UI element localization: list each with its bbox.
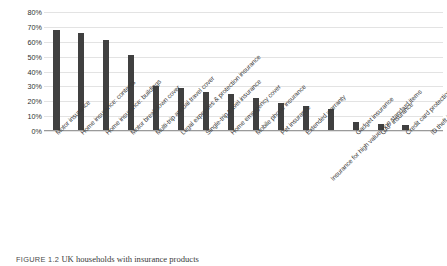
x-axis-tick-label: Home insurance: buildings bbox=[104, 131, 109, 136]
x-axis-tick-label: Gadget insurance bbox=[354, 131, 359, 136]
x-axis-tick-label: Home insurance: contents bbox=[79, 131, 84, 136]
y-axis-tick-label: 40% bbox=[28, 67, 42, 76]
figure-caption-number: FIGURE 1.2 bbox=[16, 255, 59, 264]
figure-bar-chart: Percentage of UK households 0%10%20%30%4… bbox=[0, 0, 447, 266]
x-axis-tick-label: Motor breakdown cover bbox=[129, 131, 134, 136]
x-axis-tick-label: Pet insurance bbox=[279, 131, 284, 136]
y-axis-tick-label: 60% bbox=[28, 37, 42, 46]
y-axis-tick-label: 50% bbox=[28, 52, 42, 61]
bar bbox=[53, 30, 59, 131]
x-axis-tick-label: Multi-trip annual travel cover bbox=[154, 131, 159, 136]
x-axis-tick-label: Credit card protection bbox=[404, 131, 409, 136]
x-axis-tick-label: Single-trip travel insurance bbox=[204, 131, 209, 136]
x-axis-tick-label: Mobile phone insurance bbox=[254, 131, 259, 136]
x-axis-tick-label: Home emergency cover bbox=[229, 131, 234, 136]
bar bbox=[128, 55, 134, 131]
x-axis-tick-label: ID theft insurance bbox=[429, 131, 434, 136]
bar bbox=[103, 40, 109, 131]
y-axis-tick-label: 30% bbox=[28, 82, 42, 91]
figure-caption-text: UK households with insurance products bbox=[61, 254, 198, 264]
y-axis-tick-label: 20% bbox=[28, 97, 42, 106]
y-axis-tick-label: 80% bbox=[28, 8, 42, 17]
y-axis-tick-label: 10% bbox=[28, 112, 42, 121]
bar bbox=[78, 33, 84, 131]
figure-caption: FIGURE 1.2 UK households with insurance … bbox=[16, 254, 436, 264]
y-axis-tick-label: 0% bbox=[32, 127, 42, 136]
x-axis-tick-labels: Motor insuranceHome insurance: contentsH… bbox=[44, 131, 443, 241]
x-axis-tick-label: Motor insurance bbox=[54, 131, 59, 136]
y-axis-tick-labels: 0%10%20%30%40%50%60%70%80% bbox=[14, 12, 42, 131]
y-axis-tick-label: 70% bbox=[28, 22, 42, 31]
x-axis-tick-label: Legal expenses & protection insurance bbox=[179, 131, 184, 136]
x-axis-tick-label: Insurance for high value/ non standard i… bbox=[329, 177, 334, 182]
x-axis-tick-label: Extended warranty bbox=[304, 131, 309, 136]
